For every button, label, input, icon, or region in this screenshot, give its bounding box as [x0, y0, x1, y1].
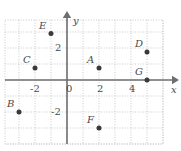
point-label-g: G	[135, 67, 143, 77]
point-label-f: F	[87, 115, 94, 125]
point-label-a: A	[87, 55, 94, 65]
y-tick--2: -2	[51, 107, 61, 117]
point-g	[145, 78, 150, 83]
point-label-c: C	[23, 55, 31, 65]
y-tick-2: 2	[55, 43, 61, 53]
point-e	[49, 31, 54, 36]
point-b	[17, 110, 22, 115]
point-a	[97, 66, 102, 71]
x-tick--2: -2	[30, 84, 40, 94]
point-label-d: D	[135, 39, 143, 49]
coordinate-plane-figure: -20242-2 ABCDEFG x y	[0, 0, 181, 151]
point-c	[33, 66, 38, 71]
point-f	[97, 126, 102, 131]
point-d	[145, 50, 150, 55]
x-tick-4: 4	[129, 84, 135, 94]
graph-canvas	[0, 0, 181, 151]
y-axis-label: y	[73, 16, 79, 26]
x-axis-label: x	[171, 85, 177, 95]
x-tick-2: 2	[97, 84, 103, 94]
x-tick-0: 0	[66, 84, 72, 94]
point-label-b: B	[7, 99, 14, 109]
point-label-e: E	[39, 21, 46, 31]
